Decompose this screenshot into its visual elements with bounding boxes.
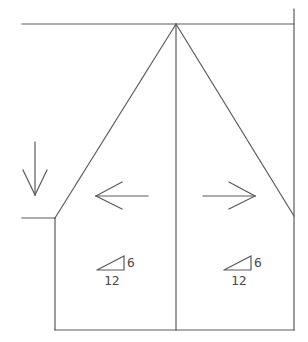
- left-arrow-icon: [96, 182, 148, 209]
- pitch-run-label: 12: [231, 273, 247, 288]
- pitch-symbol-right: 6 12: [224, 255, 262, 288]
- right-hip-line: [176, 24, 294, 216]
- left-hip-line: [55, 24, 176, 218]
- right-arrow-icon: [203, 182, 255, 209]
- pitch-triangle-icon: [224, 256, 251, 270]
- pitch-rise-label: 6: [127, 255, 135, 270]
- pitch-symbol-left: 6 12: [97, 255, 135, 288]
- roof-plan-diagram: 6 12 6 12: [0, 0, 308, 342]
- pitch-run-label: 12: [104, 273, 120, 288]
- down-arrow-icon: [23, 142, 47, 195]
- pitch-triangle-icon: [97, 256, 124, 270]
- pitch-rise-label: 6: [254, 255, 262, 270]
